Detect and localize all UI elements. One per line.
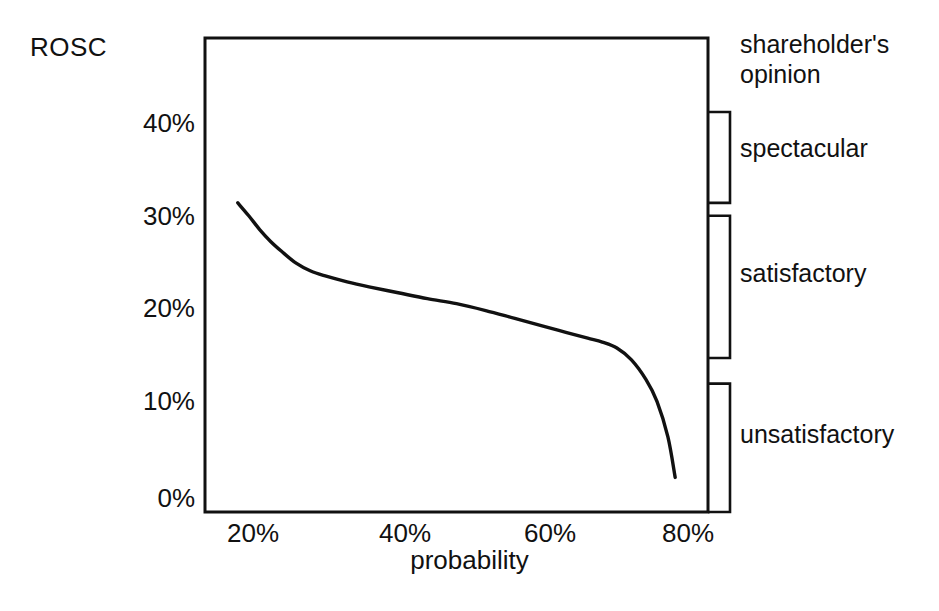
legend-bracket-satisfactory (708, 216, 730, 358)
plot-frame (205, 38, 708, 512)
chart-graphics (0, 0, 939, 611)
chart-canvas: ROSC 40% 30% 20% 10% 0% 20% 40% 60% 80% … (0, 0, 939, 611)
data-series-line (238, 203, 675, 478)
legend-bracket-unsatisfactory (708, 384, 730, 512)
legend-bracket-spectacular (708, 112, 730, 203)
